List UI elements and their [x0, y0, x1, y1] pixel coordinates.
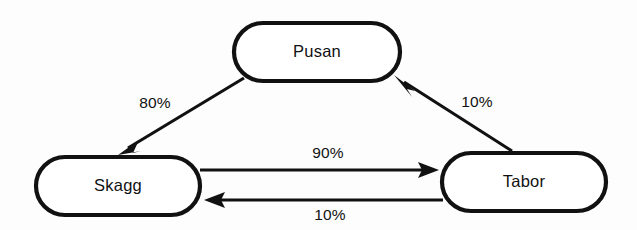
node-pusan-label: Pusan	[293, 42, 341, 60]
edge-tabor-to-pusan-line	[404, 82, 512, 151]
arrowhead-icon	[118, 140, 141, 155]
edge-label-skagg-to-tabor: 90%	[312, 144, 344, 161]
node-tabor[interactable]: Tabor	[442, 153, 606, 211]
edge-skagg-to-tabor	[200, 162, 439, 178]
edge-label-tabor-to-pusan: 10%	[461, 93, 493, 110]
edge-pusan-to-skagg-line	[128, 78, 244, 148]
node-tabor-label: Tabor	[503, 172, 546, 190]
edge-label-pusan-to-skagg: 80%	[139, 94, 171, 111]
transition-diagram: Pusan Skagg Tabor 80% 10% 90% 10%	[0, 0, 637, 230]
node-skagg-label: Skagg	[94, 176, 142, 194]
edge-tabor-to-pusan	[394, 75, 512, 151]
diagram-canvas: Pusan Skagg Tabor 80% 10% 90% 10%	[0, 0, 637, 230]
node-skagg[interactable]: Skagg	[36, 157, 200, 215]
edge-label-tabor-to-skagg: 10%	[314, 206, 346, 223]
edge-pusan-to-skagg	[118, 78, 244, 155]
node-pusan[interactable]: Pusan	[234, 23, 400, 81]
